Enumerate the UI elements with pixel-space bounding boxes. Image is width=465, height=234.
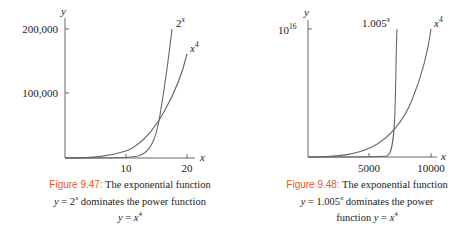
y-tick-100000: 100,000 — [22, 87, 58, 99]
y-axis-label: y — [303, 6, 309, 18]
x-tick-10: 10 — [121, 162, 133, 174]
curve-label-1005x: 1.005x — [362, 15, 391, 29]
y-tick-200000: 200,000 — [22, 23, 58, 35]
curve-2x — [65, 29, 172, 158]
curve-1005x — [308, 29, 397, 157]
x-axis-label: x — [440, 150, 446, 162]
figure-9-48: y x 1016 5000 10000 1.005x x4 Figure 9.4… — [232, 0, 465, 234]
curve-label-x4: x4 — [189, 40, 199, 54]
x-tick-10000: 10000 — [417, 162, 445, 174]
figure-number: Figure 9.47: — [49, 179, 102, 190]
curve-x4 — [65, 54, 187, 158]
figure-number: Figure 9.48: — [286, 179, 339, 190]
x-tick-20: 20 — [182, 162, 194, 174]
curve-x4 — [308, 29, 431, 157]
y-tick-1e16: 1016 — [278, 22, 297, 36]
y-axis-label: y — [60, 5, 66, 17]
figure-caption: Figure 9.47: The exponential function y … — [40, 178, 220, 224]
curve-label-x4: x4 — [433, 15, 443, 29]
x-axis-label: x — [199, 151, 205, 163]
figure-caption: Figure 9.48: The exponential function y … — [277, 178, 457, 224]
figure-9-47: y x 200,000 100,000 10 20 2x x4 Figure 9… — [0, 0, 232, 234]
x-tick-5000: 5000 — [358, 162, 381, 174]
curve-label-2x: 2x — [176, 15, 186, 29]
